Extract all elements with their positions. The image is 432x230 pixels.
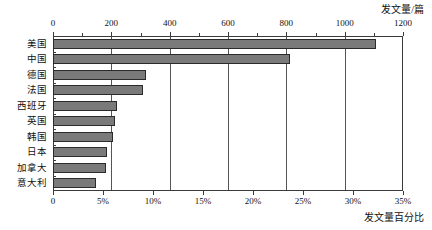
bottom-tick-mark-30	[353, 191, 354, 195]
category-label: 中国	[27, 54, 47, 65]
bar-chart: 发文量/篇 020040060080010001200 05%10%15%20%…	[0, 0, 432, 230]
bar	[53, 85, 143, 95]
top-tick-mark-200	[111, 32, 112, 36]
top-tick-label-1000: 1000	[336, 18, 354, 28]
bar	[53, 178, 96, 188]
bottom-tick-mark-10	[153, 191, 154, 195]
top-axis-title: 发文量/篇	[381, 4, 424, 16]
bar	[53, 54, 290, 64]
top-tick-mark-700	[257, 33, 258, 36]
category-tick	[53, 145, 56, 146]
category-label: 意大利	[17, 178, 47, 189]
category-label: 加拿大	[17, 162, 47, 173]
bottom-tick-label-0: 0	[51, 196, 56, 206]
category-label: 美国	[27, 38, 47, 49]
top-tick-mark-600	[228, 32, 229, 36]
bottom-tick-mark-35	[403, 191, 404, 195]
bar	[53, 101, 117, 111]
bar	[53, 39, 376, 49]
category-label: 德国	[27, 69, 47, 80]
top-tick-mark-1100	[374, 33, 375, 36]
category-tick	[53, 98, 56, 99]
category-tick	[53, 176, 56, 177]
bottom-tick-mark-15	[203, 191, 204, 195]
bottom-tick-label-20%: 20%	[245, 196, 262, 206]
top-tick-mark-1000	[345, 32, 346, 36]
bottom-tick-label-30%: 30%	[345, 196, 362, 206]
category-tick	[53, 67, 56, 68]
category-tick	[53, 114, 56, 115]
bottom-tick-label-25%: 25%	[295, 196, 312, 206]
category-label: 日本	[27, 147, 47, 158]
bar	[53, 163, 106, 173]
bars-layer	[53, 36, 403, 191]
bottom-axis-title: 发文量百分比	[364, 212, 424, 224]
top-tick-label-200: 200	[105, 18, 119, 28]
top-tick-mark-900	[316, 33, 317, 36]
bottom-tick-label-10%: 10%	[145, 196, 162, 206]
top-tick-label-600: 600	[221, 18, 235, 28]
bottom-tick-mark-5	[103, 191, 104, 195]
category-tick	[53, 129, 56, 130]
category-tick	[53, 36, 56, 37]
bar	[53, 132, 113, 142]
category-label: 西班牙	[17, 100, 47, 111]
top-tick-mark-300	[141, 33, 142, 36]
bar	[53, 147, 107, 157]
category-tick	[53, 160, 56, 161]
bottom-tick-label-15%: 15%	[195, 196, 212, 206]
bottom-tick-mark-25	[303, 191, 304, 195]
category-axis-labels: 美国中国德国法国西班牙英国韩国日本加拿大意大利	[0, 36, 50, 191]
bottom-tick-label-5%: 5%	[97, 196, 109, 206]
category-label: 英国	[27, 116, 47, 127]
bottom-tick-mark-20	[253, 191, 254, 195]
top-tick-mark-400	[170, 32, 171, 36]
bottom-tick-mark-0	[53, 191, 54, 195]
bar	[53, 70, 146, 80]
top-tick-mark-500	[199, 33, 200, 36]
top-tick-label-1200: 1200	[394, 18, 412, 28]
top-tick-label-0: 0	[51, 18, 56, 28]
category-label: 韩国	[27, 131, 47, 142]
category-tick	[53, 83, 56, 84]
top-tick-mark-800	[286, 32, 287, 36]
bottom-tick-label-35%: 35%	[395, 196, 412, 206]
top-tick-mark-1200	[403, 32, 404, 36]
top-tick-label-400: 400	[163, 18, 177, 28]
category-label: 法国	[27, 85, 47, 96]
top-tick-label-800: 800	[280, 18, 294, 28]
bar	[53, 116, 115, 126]
top-tick-mark-100	[82, 33, 83, 36]
category-tick	[53, 52, 56, 53]
